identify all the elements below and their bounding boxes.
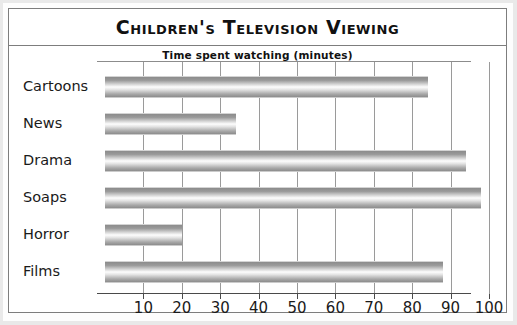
x-tick-label-70: 70 (364, 299, 383, 317)
category-label-drama: Drama (23, 152, 72, 168)
x-tick-label-10: 10 (134, 299, 153, 317)
page-edge-bottom (0, 321, 517, 325)
bar-soaps (105, 187, 481, 209)
x-tick-label-50: 50 (287, 299, 306, 317)
x-tick-label-30: 30 (211, 299, 230, 317)
x-tick-label-40: 40 (249, 299, 268, 317)
category-label-news: News (23, 115, 62, 131)
bar-news (105, 113, 236, 135)
page-edge-right (513, 0, 517, 325)
chart-subtitle: Time spent watching (minutes) (9, 49, 506, 61)
x-tick-label-100: 100 (475, 299, 504, 317)
plot-area (97, 61, 471, 294)
bar-horror (105, 224, 182, 246)
x-tick-label-60: 60 (326, 299, 345, 317)
x-tick-label-20: 20 (172, 299, 191, 317)
category-label-horror: Horror (23, 226, 69, 242)
x-tick-label-90: 90 (441, 299, 460, 317)
x-tick-label-80: 80 (403, 299, 422, 317)
category-label-films: Films (23, 263, 60, 279)
chart-title: Children's Television Viewing (116, 16, 400, 38)
bar-films (105, 261, 443, 283)
category-label-cartoons: Cartoons (23, 78, 88, 94)
title-band: Children's Television Viewing (9, 9, 506, 46)
bar-cartoons (105, 76, 428, 98)
gridline-100 (489, 62, 490, 294)
gridline-90 (451, 62, 452, 294)
page-edge-left (0, 0, 3, 325)
x-axis-line (97, 293, 471, 294)
category-label-soaps: Soaps (23, 189, 67, 205)
bar-drama (105, 150, 466, 172)
page-edge-top (0, 0, 517, 3)
chart-page: Children's Television Viewing Time spent… (0, 0, 517, 325)
chart-frame: Children's Television Viewing Time spent… (8, 8, 507, 313)
